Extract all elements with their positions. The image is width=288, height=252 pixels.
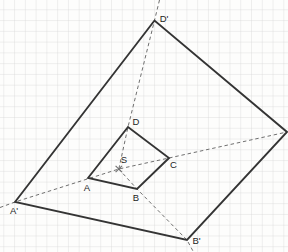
point-label-S: S [121, 154, 127, 165]
diagram-canvas: ABCDSA'B'D' [0, 0, 288, 252]
point-label-D: D [133, 116, 140, 127]
point-label-B1: B' [192, 235, 200, 246]
point-label-B: B [133, 192, 139, 203]
point-label-A: A [84, 182, 91, 193]
geometry-dilation-figure: ABCDSA'B'D' [0, 0, 288, 252]
point-label-D1: D' [160, 13, 169, 24]
graph-paper-grid [0, 0, 288, 252]
point-label-C: C [170, 159, 177, 170]
point-label-A1: A' [10, 205, 18, 216]
